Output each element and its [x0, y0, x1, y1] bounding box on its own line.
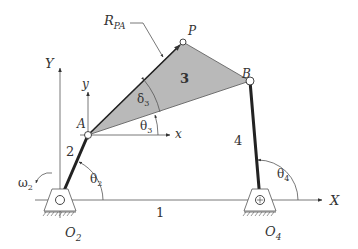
label-global-y: Y	[45, 56, 55, 71]
rpa-leader	[130, 23, 163, 57]
label-theta4: θ4	[277, 167, 289, 183]
label-omega2: ω2	[18, 176, 33, 192]
joint-a	[85, 132, 92, 139]
label-link-2: 2	[66, 144, 74, 159]
label-link-1: 1	[156, 205, 164, 220]
ground-pivot-o2	[43, 189, 76, 216]
label-theta3: θ3	[140, 119, 152, 135]
label-global-x: X	[329, 193, 340, 208]
label-local-x: x	[175, 127, 182, 141]
ground-pivot-o4	[243, 189, 276, 216]
joint-p	[180, 39, 186, 45]
label-link-3: 3	[180, 71, 189, 86]
label-o2: O2	[65, 225, 82, 243]
label-point-a: A	[76, 117, 86, 131]
label-point-p: P	[187, 24, 197, 38]
theta3-arc	[155, 115, 158, 135]
label-rpa: RPA	[103, 13, 126, 31]
output-link-4	[250, 81, 260, 200]
label-link-4: 4	[234, 133, 242, 148]
label-theta2: θ2	[90, 172, 102, 188]
fourbar-diagram: Y X y x A P B RPA O2 O4 1 2 3 4 θ2 θ3 θ4…	[0, 0, 358, 249]
label-local-y: y	[81, 77, 89, 91]
omega2-arrow	[36, 173, 52, 183]
label-o4: O4	[265, 224, 282, 242]
label-point-b: B	[241, 67, 251, 81]
